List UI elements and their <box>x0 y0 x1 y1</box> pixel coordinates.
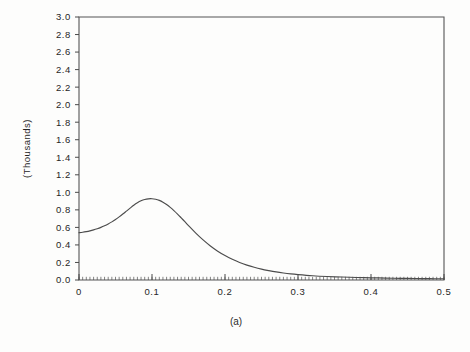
x-tick-label-0.5: 0.5 <box>436 286 451 297</box>
y-tick-label-2.6: 2.6 <box>56 46 71 57</box>
y-axis-title-group: (Thousands) <box>21 119 32 178</box>
y-tick-label-1.0: 1.0 <box>56 187 71 198</box>
chart-figure: 0.00.20.40.60.81.01.21.41.61.82.02.22.42… <box>0 0 470 352</box>
y-tick-label-0.0: 0.0 <box>56 274 71 285</box>
figure-page: 0.00.20.40.60.81.01.21.41.61.82.02.22.42… <box>0 0 470 352</box>
y-tick-label-0.2: 0.2 <box>56 257 71 268</box>
y-tick-label-3.0: 3.0 <box>56 11 71 22</box>
y-tick-label-1.8: 1.8 <box>56 117 71 128</box>
y-tick-label-1.6: 1.6 <box>56 134 71 145</box>
x-tick-label-0.1: 0.1 <box>144 286 159 297</box>
x-tick-label-0: 0 <box>76 286 82 297</box>
y-tick-label-2.4: 2.4 <box>56 64 71 75</box>
y-axis-title: (Thousands) <box>21 119 32 178</box>
x-tick-label-0.4: 0.4 <box>363 286 378 297</box>
y-tick-label-0.8: 0.8 <box>56 204 71 215</box>
y-tick-label-1.4: 1.4 <box>56 152 71 163</box>
y-tick-label-2.0: 2.0 <box>56 99 71 110</box>
y-tick-label-2.2: 2.2 <box>56 82 71 93</box>
y-tick-label-1.2: 1.2 <box>56 169 71 180</box>
y-tick-label-2.8: 2.8 <box>56 29 71 40</box>
figure-caption: (a) <box>230 316 242 327</box>
x-tick-label-0.3: 0.3 <box>290 286 305 297</box>
y-tick-label-0.4: 0.4 <box>56 239 71 250</box>
y-tick-label-0.6: 0.6 <box>56 222 71 233</box>
x-tick-label-0.2: 0.2 <box>217 286 232 297</box>
